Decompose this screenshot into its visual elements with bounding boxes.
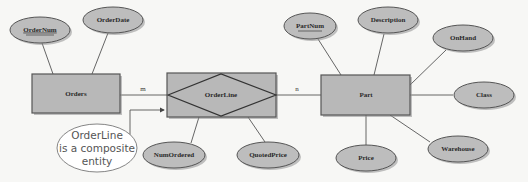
entity-part[interactable]: Part bbox=[321, 75, 412, 117]
attribute-description-label: Description bbox=[371, 16, 406, 24]
attribute-partnum[interactable]: PartNum bbox=[284, 13, 338, 41]
callout-line-2: is a composite bbox=[59, 142, 135, 154]
cardinality-n: n bbox=[295, 85, 299, 93]
connector-description-part bbox=[374, 34, 384, 75]
attribute-class-label: Class bbox=[476, 91, 492, 99]
attribute-price-label: Price bbox=[358, 154, 374, 162]
entity-orderline[interactable]: OrderLine bbox=[167, 73, 278, 119]
attribute-quotedprice-label: QuotedPrice bbox=[249, 151, 287, 159]
attribute-price[interactable]: Price bbox=[336, 145, 398, 173]
connector-warehouse-part bbox=[390, 115, 430, 142]
attribute-onhand[interactable]: OnHand bbox=[433, 25, 495, 53]
callout-line-1: OrderLine bbox=[71, 129, 123, 141]
attribute-warehouse-label: Warehouse bbox=[441, 145, 474, 153]
connector-quotedprice-orderline bbox=[248, 117, 265, 142]
attribute-description[interactable]: Description bbox=[358, 7, 420, 35]
connector-onhand-part bbox=[410, 50, 446, 85]
attribute-partnum-label: PartNum bbox=[296, 22, 324, 30]
connector-partnum-part bbox=[318, 39, 341, 75]
attribute-numordered[interactable]: NumOrdered bbox=[143, 142, 207, 170]
attribute-class[interactable]: Class bbox=[454, 82, 516, 110]
connector-numordered-orderline bbox=[191, 117, 199, 143]
entity-part-label: Part bbox=[359, 91, 373, 99]
callout-arrow bbox=[130, 110, 164, 138]
entity-orders[interactable]: Orders bbox=[32, 74, 122, 115]
attribute-orderdate-label: OrderDate bbox=[97, 16, 130, 24]
attribute-ordernum-label: OrderNum bbox=[23, 26, 57, 34]
entity-orderline-label: OrderLine bbox=[205, 91, 237, 99]
attribute-onhand-label: OnHand bbox=[450, 34, 476, 42]
connector-orderdate-orders bbox=[92, 33, 108, 74]
attribute-ordernum[interactable]: OrderNum bbox=[10, 17, 72, 45]
callout-line-3: entity bbox=[82, 155, 112, 167]
attribute-numordered-label: NumOrdered bbox=[154, 151, 194, 159]
cardinality-m: m bbox=[140, 85, 146, 93]
attribute-warehouse[interactable]: Warehouse bbox=[428, 136, 490, 164]
attribute-orderdate[interactable]: OrderDate bbox=[83, 7, 145, 35]
er-diagram: m n Orders OrderLine Part OrderNum Order… bbox=[0, 0, 528, 182]
connector-ordernum-orders bbox=[42, 43, 53, 74]
attribute-quotedprice[interactable]: QuotedPrice bbox=[237, 142, 301, 170]
callout-note: OrderLine is a composite entity bbox=[57, 124, 137, 172]
entity-orders-label: Orders bbox=[65, 90, 87, 98]
